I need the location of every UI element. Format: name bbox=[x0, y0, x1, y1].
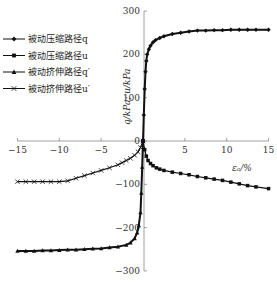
x-tick-label: 10 bbox=[221, 145, 233, 155]
legend-item: 被动挤伸路径q′ bbox=[3, 66, 90, 77]
legend-label: 被动压缩路径q bbox=[28, 33, 88, 44]
legend: 被动压缩路径q被动压缩路径u被动挤伸路径q′被动挤伸路径u′ bbox=[3, 33, 90, 94]
legend-item: 被动压缩路径u bbox=[3, 50, 88, 61]
x-tick-label: −5 bbox=[95, 145, 109, 155]
y-tick-label: 0 bbox=[134, 136, 140, 146]
x-tick-label: −15 bbox=[8, 145, 27, 155]
legend-item: 被动压缩路径q bbox=[3, 33, 88, 44]
y-tick-label: −300 bbox=[115, 266, 140, 276]
legend-label: 被动挤伸路径u′ bbox=[28, 83, 90, 94]
series-1 bbox=[141, 28, 271, 144]
y-tick-label: −100 bbox=[115, 179, 140, 189]
legend-item: 被动挤伸路径u′ bbox=[3, 83, 90, 94]
legend-label: 被动挤伸路径q′ bbox=[28, 66, 90, 77]
y-axis-label: q/kPa; u/kPa bbox=[122, 69, 132, 125]
x-axis-label: εₐ/% bbox=[232, 163, 252, 173]
y-tick-label: 200 bbox=[123, 49, 140, 59]
x-tick-label: −10 bbox=[50, 145, 69, 155]
chart-canvas: −15−10−551015−300−200−1000100200300 被动压缩… bbox=[0, 0, 277, 282]
x-tick-label: 15 bbox=[263, 145, 275, 155]
series-layer bbox=[15, 28, 271, 253]
x-tick-label: 5 bbox=[182, 145, 188, 155]
series-3 bbox=[15, 139, 145, 253]
legend-label: 被动压缩路径u bbox=[28, 50, 88, 61]
y-tick-label: 300 bbox=[123, 6, 140, 16]
series-4 bbox=[15, 139, 145, 184]
